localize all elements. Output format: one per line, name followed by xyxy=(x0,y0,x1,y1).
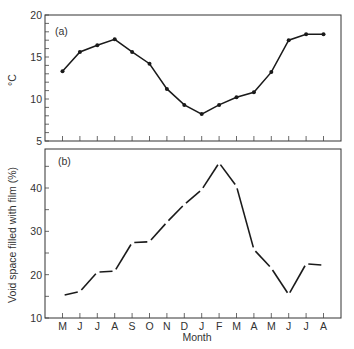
panel-a-y-label: °C xyxy=(6,74,18,86)
x-tick-label: J xyxy=(95,320,100,332)
data-point xyxy=(200,112,204,116)
data-point xyxy=(95,43,99,47)
y-tick-label: 10 xyxy=(30,312,42,324)
void-space-segment xyxy=(116,244,131,269)
figure: 5101520 (a) °C 10203040 MJJASONDJFMAMJJA… xyxy=(0,0,354,349)
y-tick-label: 15 xyxy=(30,51,42,63)
data-point xyxy=(78,50,82,54)
data-point xyxy=(61,69,65,73)
panel-a-x-ticks xyxy=(63,136,324,141)
x-tick-label: M xyxy=(58,320,67,332)
x-axis-label: Month xyxy=(182,331,211,343)
void-space-segment xyxy=(308,264,321,265)
panel-a-frame xyxy=(45,15,341,141)
y-tick-label: 20 xyxy=(30,9,42,21)
void-space-segment xyxy=(255,251,269,266)
x-tick-label: O xyxy=(145,320,153,332)
panel-b-frame xyxy=(45,149,341,318)
x-tick-label: F xyxy=(216,320,222,332)
panel-b-series xyxy=(65,165,322,295)
y-tick-label: 20 xyxy=(30,269,42,281)
data-point xyxy=(269,70,273,74)
void-space-segment xyxy=(273,270,288,293)
data-point xyxy=(252,90,256,94)
data-point xyxy=(130,50,134,54)
void-space-segment xyxy=(99,271,112,272)
y-tick-label: 5 xyxy=(36,135,42,147)
data-point xyxy=(235,95,239,99)
void-space-segment xyxy=(81,274,95,290)
void-space-segment xyxy=(186,191,200,203)
x-tick-label: J xyxy=(303,320,308,332)
data-point xyxy=(322,32,326,36)
panel-b-x-axis: MJJASONDJFMAMJJA xyxy=(58,313,327,332)
temperature-line xyxy=(63,34,324,114)
data-point xyxy=(165,87,169,91)
data-point xyxy=(304,32,308,36)
y-tick-label: 30 xyxy=(30,225,42,237)
data-point xyxy=(217,103,221,107)
x-tick-label: A xyxy=(111,320,118,332)
panel-b-void-space: 10203040 MJJASONDJFMAMJJA (b) Void space… xyxy=(6,149,341,343)
data-point xyxy=(113,37,117,41)
panel-b-y-label: Void space filled with film (%) xyxy=(6,167,18,303)
void-space-segment xyxy=(237,188,253,247)
void-space-segment xyxy=(203,165,218,188)
x-tick-label: J xyxy=(286,320,291,332)
void-space-segment xyxy=(134,242,147,243)
panel-a-series xyxy=(61,32,326,116)
x-tick-label: A xyxy=(250,320,257,332)
data-point xyxy=(182,103,186,107)
void-space-segment xyxy=(65,292,78,295)
void-space-segment xyxy=(151,224,165,240)
x-tick-label: S xyxy=(129,320,136,332)
void-space-segment xyxy=(290,266,305,293)
panel-a-label: (a) xyxy=(55,25,68,37)
x-tick-label: N xyxy=(163,320,171,332)
panel-a-temperature: 5101520 (a) °C xyxy=(6,9,341,147)
void-space-segment xyxy=(168,206,182,221)
x-tick-label: A xyxy=(320,320,327,332)
x-tick-label: J xyxy=(77,320,82,332)
data-point xyxy=(148,62,152,66)
x-tick-label: M xyxy=(232,320,241,332)
panel-a-y-axis: 5101520 xyxy=(30,9,49,147)
y-tick-label: 40 xyxy=(30,182,42,194)
data-point xyxy=(287,38,291,42)
panel-b-y-axis: 10203040 xyxy=(30,166,49,324)
y-tick-label: 10 xyxy=(30,93,42,105)
void-space-segment xyxy=(220,165,235,185)
x-tick-label: M xyxy=(267,320,276,332)
panel-b-label: (b) xyxy=(58,155,71,167)
